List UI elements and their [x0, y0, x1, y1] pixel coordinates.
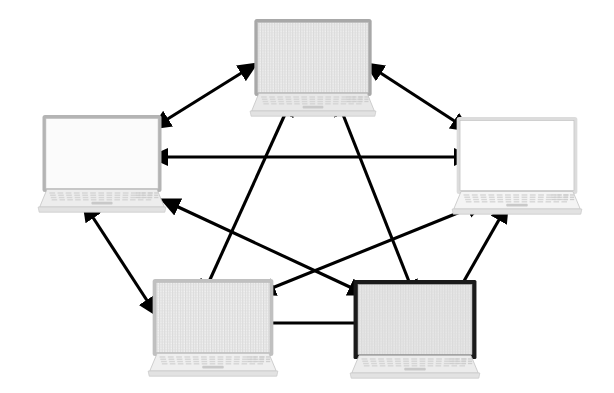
- laptop-base: [350, 356, 480, 379]
- laptop-base: [250, 94, 376, 117]
- node-laptop-top[interactable]: [248, 18, 378, 118]
- edge-top-bottomleft: [208, 112, 286, 284]
- trackpad: [506, 204, 527, 207]
- laptop-lid: [153, 279, 274, 356]
- laptop-lid: [354, 280, 477, 359]
- node-laptop-bottom-left[interactable]: [146, 278, 280, 378]
- edge-left-bottomright: [176, 206, 352, 288]
- trackpad: [404, 368, 425, 371]
- laptop-base: [452, 192, 582, 215]
- edge-top-left: [166, 72, 243, 120]
- node-laptop-bottom-right[interactable]: [348, 280, 482, 380]
- trackpad: [303, 106, 324, 109]
- laptop-screen: [46, 119, 158, 189]
- node-laptop-right[interactable]: [450, 116, 584, 216]
- laptop-screen: [258, 23, 369, 93]
- laptop-lid: [43, 115, 162, 192]
- laptop-screen: [460, 121, 574, 191]
- edge-left-bottomleft: [92, 216, 148, 302]
- network-diagram: [0, 0, 614, 393]
- edge-top-right: [379, 72, 456, 122]
- edge-top-bottomright: [342, 112, 410, 284]
- laptop-screen: [358, 285, 472, 355]
- edge-right-bottomleft: [272, 208, 470, 288]
- laptop-lid: [457, 117, 578, 194]
- laptop-base: [148, 354, 278, 377]
- laptop-lid: [254, 19, 371, 96]
- laptop-screen: [156, 283, 270, 353]
- node-laptop-left[interactable]: [36, 114, 168, 214]
- laptop-base: [38, 190, 166, 213]
- trackpad: [91, 202, 112, 205]
- trackpad: [202, 366, 223, 369]
